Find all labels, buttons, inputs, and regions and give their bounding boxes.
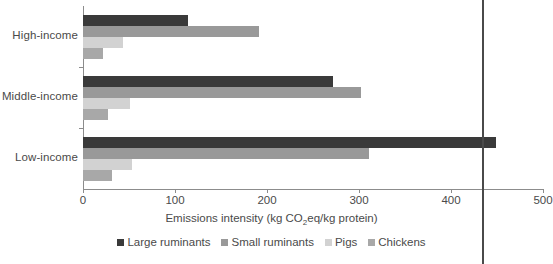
legend-item-pigs: Pigs	[325, 236, 357, 248]
legend-label: Small ruminants	[231, 236, 313, 248]
x-tick-label-400: 400	[441, 194, 460, 206]
legend-swatch-icon	[117, 239, 124, 246]
y-tick-label-high-income: High-income	[0, 29, 78, 41]
chart-legend: Large ruminantsSmall ruminantsPigsChicke…	[0, 236, 543, 248]
bar-low-income-pigs	[83, 159, 132, 170]
legend-label: Pigs	[335, 236, 357, 248]
legend-item-small-ruminants: Small ruminants	[221, 236, 313, 248]
x-tick-200	[267, 189, 268, 193]
y-tick-label-low-income: Low-income	[0, 151, 78, 163]
y-tick-label-middle-income: Middle-income	[0, 90, 78, 102]
y-axis-group-tick	[79, 128, 84, 129]
plot-area	[83, 6, 543, 189]
bar-high-income-large-ruminants	[83, 15, 188, 26]
legend-item-large-ruminants: Large ruminants	[117, 236, 210, 248]
bar-high-income-small-ruminants	[83, 26, 259, 37]
x-tick-500	[543, 189, 544, 193]
x-tick-label-200: 200	[257, 194, 276, 206]
legend-swatch-icon	[368, 239, 375, 246]
bar-low-income-chickens	[83, 170, 112, 181]
x-tick-0	[83, 189, 84, 193]
x-tick-300	[359, 189, 360, 193]
legend-label: Large ruminants	[127, 236, 210, 248]
y-axis-group-tick	[79, 67, 84, 68]
bar-middle-income-pigs	[83, 98, 130, 109]
x-axis-title: Emissions intensity (kg CO2eq/kg protein…	[0, 212, 543, 227]
legend-item-chickens: Chickens	[368, 236, 425, 248]
x-tick-100	[175, 189, 176, 193]
bar-middle-income-large-ruminants	[83, 76, 333, 87]
bar-group-middle-income	[83, 67, 543, 128]
x-axis-title-post: eq/kg protein)	[307, 212, 377, 224]
bar-middle-income-small-ruminants	[83, 87, 361, 98]
legend-swatch-icon	[221, 239, 228, 246]
legend-label: Chickens	[378, 236, 425, 248]
x-tick-label-100: 100	[165, 194, 184, 206]
bar-low-income-large-ruminants	[83, 137, 496, 148]
x-axis-title-pre: Emissions intensity (kg CO	[165, 212, 302, 224]
legend-swatch-icon	[325, 239, 332, 246]
bar-high-income-pigs	[83, 37, 123, 48]
x-axis-line	[83, 189, 543, 190]
bar-middle-income-chickens	[83, 109, 108, 120]
bar-low-income-small-ruminants	[83, 148, 369, 159]
bar-high-income-chickens	[83, 48, 103, 59]
bar-group-high-income	[83, 6, 543, 67]
x-tick-label-500: 500	[533, 194, 552, 206]
x-tick-label-300: 300	[349, 194, 368, 206]
x-tick-label-0: 0	[80, 194, 86, 206]
y-axis-labels: High-incomeMiddle-incomeLow-income	[0, 6, 78, 189]
page-edge-rule-icon	[482, 0, 483, 264]
x-tick-400	[451, 189, 452, 193]
bar-group-low-income	[83, 128, 543, 189]
